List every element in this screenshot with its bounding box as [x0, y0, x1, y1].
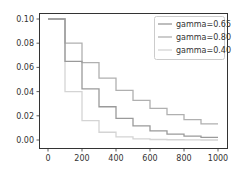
x-tick-label: 800: [176, 154, 191, 163]
y-axis: 0.000.020.040.060.080.10: [16, 15, 39, 145]
x-tick-label: 1000: [208, 154, 228, 163]
legend-label: gamma=0.65: [176, 20, 231, 29]
x-tick-label: 0: [45, 154, 50, 163]
legend-label: gamma=0.40: [176, 46, 231, 55]
y-tick-label: 0.02: [16, 112, 34, 121]
x-tick-label: 400: [108, 154, 123, 163]
legend: gamma=0.65gamma=0.80gamma=0.40: [155, 17, 231, 60]
x-tick-label: 600: [142, 154, 157, 163]
legend-label: gamma=0.80: [176, 33, 231, 42]
y-tick-label: 0.08: [16, 39, 34, 48]
y-tick-label: 0.04: [16, 88, 34, 97]
y-tick-label: 0.10: [16, 15, 34, 24]
x-tick-label: 200: [74, 154, 89, 163]
y-tick-label: 0.06: [16, 63, 34, 72]
y-tick-label: 0.00: [16, 136, 34, 145]
x-axis: 02004006008001000: [45, 149, 228, 164]
step-chart: 02004006008001000 0.000.020.040.060.080.…: [0, 0, 242, 174]
